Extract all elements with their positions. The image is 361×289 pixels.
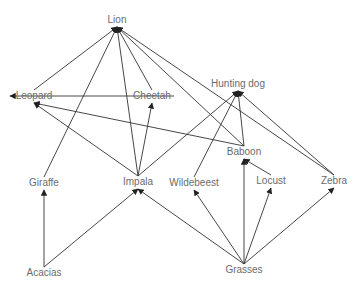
- node-wildebeest: Wildebeest: [169, 178, 218, 188]
- node-impala: Impala: [123, 177, 153, 187]
- edge-grasses-to-wildebeest: [194, 190, 244, 264]
- edge-zebra-to-hunting_dog: [238, 91, 334, 175]
- edge-locust-to-baboon: [244, 159, 271, 175]
- edge-leopard-to-lion: [34, 27, 117, 90]
- node-locust: Locust: [256, 176, 285, 186]
- node-leopard: Leopard: [16, 91, 53, 101]
- node-grasses: Grasses: [225, 265, 262, 275]
- edge-cheetah-to-lion: [117, 27, 152, 90]
- node-lion: Lion: [108, 15, 127, 25]
- food-web-diagram: Lion Leopard Cheetah Hunting dog Baboon …: [0, 0, 361, 289]
- edge-acacias-to-impala: [44, 189, 138, 267]
- edge-baboon-to-leopard: [34, 103, 244, 146]
- node-giraffe: Giraffe: [29, 178, 59, 188]
- edge-impala-to-cheetah: [138, 103, 152, 176]
- node-zebra: Zebra: [321, 176, 347, 186]
- edge-impala-to-lion: [117, 27, 138, 176]
- edge-impala-to-hunting_dog: [138, 91, 238, 176]
- edge-zebra-to-lion: [117, 27, 334, 175]
- edge-grasses-to-impala: [138, 189, 244, 264]
- edges-layer: [0, 0, 361, 289]
- node-cheetah: Cheetah: [133, 91, 171, 101]
- node-acacias: Acacias: [26, 268, 61, 278]
- node-baboon: Baboon: [227, 147, 261, 157]
- node-hunting-dog: Hunting dog: [211, 79, 265, 89]
- edge-baboon-to-hunting_dog: [238, 91, 244, 146]
- edge-giraffe-to-lion: [44, 27, 117, 177]
